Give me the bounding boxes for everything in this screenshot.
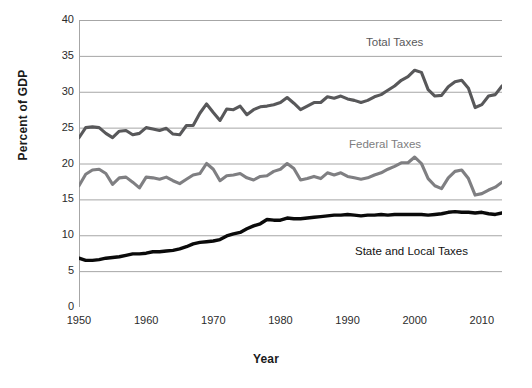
y-axis-tick-40: 40 [48,14,74,25]
total-taxes-label: Total Taxes [366,36,423,48]
y-axis-tick-20: 20 [48,158,74,169]
x-axis-tick-2010: 2010 [462,314,502,326]
y-axis-tick-10: 10 [48,229,74,240]
x-axis-tick-1990: 1990 [328,314,368,326]
state-and-local-taxes-label: State and Local Taxes [355,245,468,257]
y-axis-tick-15: 15 [48,193,74,204]
x-axis-title: Year [0,352,532,366]
y-axis-tick-35: 35 [48,50,74,61]
y-axis-tick-30: 30 [48,86,74,97]
x-axis-tick-1950: 1950 [59,314,99,326]
federal-taxes-label: Federal Taxes [349,138,421,150]
plot-area [79,20,502,307]
x-axis-tick-1980: 1980 [260,314,300,326]
plot-svg [79,20,502,307]
x-axis-tick-1960: 1960 [126,314,166,326]
y-axis-tick-25: 25 [48,122,74,133]
y-axis-tick-5: 5 [48,265,74,276]
tax-revenue-line-chart: Percent of GDP 0510152025303540 19501960… [0,0,532,388]
series-line-total-taxes [79,70,502,137]
x-axis-tick-2000: 2000 [395,314,435,326]
y-axis-tick-0: 0 [48,301,74,312]
y-axis-tick-labels: 0510152025303540 [48,0,74,388]
y-axis-title: Percent of GDP [16,50,30,180]
x-axis-tick-1970: 1970 [193,314,233,326]
series-line-federal-taxes [79,157,502,195]
